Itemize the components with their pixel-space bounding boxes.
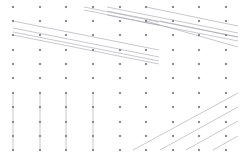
data-point-marker <box>39 135 41 137</box>
data-point-marker <box>119 135 121 137</box>
data-point-marker <box>119 49 121 51</box>
connector-line <box>84 7 159 22</box>
connector-line <box>107 15 238 41</box>
data-point-marker <box>65 20 67 22</box>
data-point-marker <box>12 106 14 108</box>
data-point-marker <box>119 34 121 36</box>
connector-line <box>133 93 238 150</box>
data-point-marker <box>92 6 94 8</box>
data-point-marker <box>12 6 14 8</box>
data-point-marker <box>119 149 121 151</box>
plot-canvas <box>0 0 241 160</box>
connector-line <box>13 28 159 57</box>
data-point-marker <box>92 34 94 36</box>
connector-line <box>13 32 159 61</box>
data-point-marker <box>119 106 121 108</box>
data-point-marker <box>225 121 227 123</box>
data-point-marker <box>12 92 14 94</box>
data-point-marker <box>145 135 147 137</box>
data-point-marker <box>65 92 67 94</box>
data-point-marker <box>39 20 41 22</box>
data-point-marker <box>225 106 227 108</box>
data-point-marker <box>145 121 147 123</box>
data-point-marker <box>92 92 94 94</box>
data-point-marker <box>39 106 41 108</box>
connector-line <box>84 10 159 25</box>
data-point-marker <box>172 106 174 108</box>
connector-line <box>160 107 238 150</box>
data-point-marker <box>12 49 14 51</box>
data-point-marker <box>198 49 200 51</box>
data-point-marker <box>65 106 67 108</box>
data-point-marker <box>12 34 14 36</box>
data-point-marker <box>172 49 174 51</box>
data-point-marker <box>198 106 200 108</box>
data-point-marker <box>172 149 174 151</box>
data-point-marker <box>92 63 94 65</box>
data-point-marker <box>39 149 41 151</box>
data-point-marker <box>39 121 41 123</box>
data-point-marker <box>65 6 67 8</box>
data-point-marker <box>198 77 200 79</box>
data-point-marker <box>119 77 121 79</box>
data-point-marker <box>198 63 200 65</box>
data-point-marker <box>172 92 174 94</box>
data-point-marker <box>12 149 14 151</box>
data-point-marker <box>12 77 14 79</box>
data-point-marker <box>92 106 94 108</box>
data-point-marker <box>145 34 147 36</box>
data-point-marker <box>65 135 67 137</box>
data-point-marker <box>39 34 41 36</box>
data-point-marker <box>119 63 121 65</box>
data-point-marker <box>225 34 227 36</box>
scatter-plot-svg <box>0 0 241 160</box>
data-point-marker <box>119 92 121 94</box>
data-point-marker <box>225 149 227 151</box>
data-point-marker <box>119 6 121 8</box>
data-point-marker <box>65 34 67 36</box>
data-point-marker <box>145 77 147 79</box>
connector-line <box>13 35 159 64</box>
data-point-marker <box>198 20 200 22</box>
data-point-marker <box>65 121 67 123</box>
data-point-marker <box>172 63 174 65</box>
data-point-marker <box>172 121 174 123</box>
data-point-marker <box>119 20 121 22</box>
data-point-marker <box>145 149 147 151</box>
data-point-marker <box>172 6 174 8</box>
data-point-marker <box>198 135 200 137</box>
data-point-marker <box>92 149 94 151</box>
data-point-marker <box>39 6 41 8</box>
data-point-marker <box>225 92 227 94</box>
data-point-marker <box>65 77 67 79</box>
data-point-marker <box>39 92 41 94</box>
data-point-marker <box>12 135 14 137</box>
data-point-marker <box>198 6 200 8</box>
connector-line <box>146 7 238 26</box>
data-point-marker <box>198 121 200 123</box>
data-point-marker <box>39 63 41 65</box>
data-point-marker <box>119 121 121 123</box>
connector-line <box>213 136 238 150</box>
data-point-marker <box>65 49 67 51</box>
data-point-marker <box>145 92 147 94</box>
data-point-marker <box>225 77 227 79</box>
data-point-marker <box>92 121 94 123</box>
data-point-marker <box>198 92 200 94</box>
data-point-marker <box>172 20 174 22</box>
data-point-marker <box>172 34 174 36</box>
data-point-marker <box>145 63 147 65</box>
data-point-marker <box>198 34 200 36</box>
data-point-marker <box>39 49 41 51</box>
line-layer <box>13 7 238 150</box>
data-point-marker <box>92 20 94 22</box>
data-point-marker <box>12 63 14 65</box>
data-point-marker <box>225 49 227 51</box>
data-point-marker <box>39 77 41 79</box>
data-point-marker <box>225 63 227 65</box>
point-layer <box>12 6 227 151</box>
data-point-marker <box>145 106 147 108</box>
data-point-marker <box>225 20 227 22</box>
data-point-marker <box>92 49 94 51</box>
data-point-marker <box>92 135 94 137</box>
